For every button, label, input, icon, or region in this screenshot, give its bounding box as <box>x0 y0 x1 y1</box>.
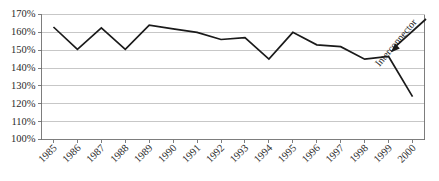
x-axis-tick-label: 1997 <box>324 142 347 165</box>
line-chart: 100%110%120%130%140%150%160%170% 1985198… <box>0 0 439 181</box>
y-axis-tick-label: 160% <box>11 26 36 37</box>
x-axis-tick-label: 1998 <box>347 142 370 165</box>
x-axis-tick-label: 1990 <box>156 142 179 165</box>
chart-canvas: 100%110%120%130%140%150%160%170% 1985198… <box>0 0 439 181</box>
annotation-interconnector: Interconnector <box>373 16 426 68</box>
y-axis-tick-label: 130% <box>11 80 36 91</box>
x-axis-tick-label: 1992 <box>204 142 227 165</box>
y-axis-tick-label: 100% <box>11 133 36 144</box>
y-axis-tick-marks <box>38 15 42 140</box>
x-axis-tick-labels: 1985198619871988198919901991199219931994… <box>36 142 418 165</box>
x-axis-tick-label: 1991 <box>180 142 203 165</box>
x-axis-tick-label: 1986 <box>60 142 83 165</box>
x-axis-tick-label: 1987 <box>84 142 107 165</box>
y-axis-tick-label: 170% <box>11 8 36 19</box>
x-axis-tick-label: 1988 <box>108 142 131 165</box>
x-axis-tick-label: 1994 <box>252 142 275 165</box>
x-axis-tick-label: 1989 <box>132 142 155 165</box>
y-axis-tick-label: 150% <box>11 44 36 55</box>
x-axis-tick-label: 1985 <box>36 142 59 165</box>
x-axis-tick-label: 1995 <box>276 142 299 165</box>
x-axis-tick-label: 1993 <box>228 142 251 165</box>
x-axis-tick-label: 2000 <box>395 142 418 165</box>
y-axis-tick-label: 140% <box>11 62 36 73</box>
x-axis-tick-label: 1999 <box>371 142 394 165</box>
y-axis-tick-label: 110% <box>11 116 35 127</box>
x-axis-tick-label: 1996 <box>300 142 323 165</box>
annotation-label: Interconnector <box>373 16 419 68</box>
x-axis-tick-marks <box>53 140 412 144</box>
y-axis-tick-label: 120% <box>11 98 36 109</box>
y-axis-tick-labels: 100%110%120%130%140%150%160%170% <box>11 8 36 144</box>
